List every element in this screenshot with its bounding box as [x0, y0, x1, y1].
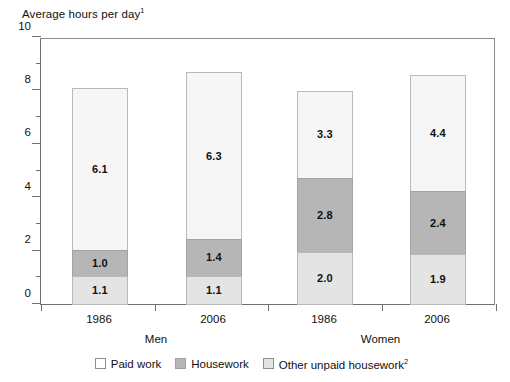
- legend-item-paid[interactable]: Paid work: [95, 358, 162, 370]
- x-axis-category-label: 1986: [279, 313, 369, 325]
- bar-segment-value-label: 1.4: [206, 252, 222, 263]
- x-axis-category-label: 2006: [392, 313, 482, 325]
- bar-segment-other: 6.3: [186, 72, 242, 240]
- x-axis-group-label-men: Men: [96, 333, 216, 345]
- y-axis-tick-label: 8: [7, 74, 31, 86]
- bar-segment-housework: 1.4: [186, 239, 242, 276]
- x-axis-category-label: 2006: [168, 313, 258, 325]
- bar-men-1986: 6.11.01.1: [72, 88, 128, 304]
- bar-segment-value-label: 2.0: [317, 273, 333, 284]
- y-axis-tick-label: 2: [7, 234, 31, 246]
- bar-segment-paid: 1.1: [72, 276, 128, 305]
- bar-segment-other: 6.1: [72, 88, 128, 251]
- bar-segment-paid: 1.9: [410, 254, 466, 305]
- x-axis-category-label: 1986: [54, 313, 144, 325]
- x-axis-group-label-women: Women: [321, 333, 441, 345]
- y-axis-tick: [32, 36, 41, 37]
- y-axis-tick: [32, 89, 41, 90]
- bar-men-2006: 6.31.41.1: [186, 72, 242, 304]
- legend-swatch-paid: [95, 358, 106, 369]
- legend-swatch-housework: [175, 358, 186, 369]
- legend-label: Paid work: [111, 358, 162, 370]
- bar-segment-value-label: 1.1: [206, 285, 222, 296]
- axis-title-footnote-marker: 1: [140, 6, 144, 15]
- bar-segment-value-label: 1.9: [430, 274, 446, 285]
- x-axis-tick: [382, 304, 383, 311]
- y-axis-tick: [32, 303, 41, 304]
- legend-item-other[interactable]: Other unpaid housework2: [263, 357, 408, 371]
- bar-women-2006: 4.42.41.9: [410, 75, 466, 304]
- y-axis-minor-tick: [36, 170, 41, 171]
- bar-segment-value-label: 6.3: [206, 151, 222, 162]
- legend-label: Housework: [191, 358, 249, 370]
- y-axis-minor-tick: [36, 63, 41, 64]
- y-axis-tick: [32, 143, 41, 144]
- bar-segment-housework: 2.4: [410, 191, 466, 255]
- legend-swatch-other: [263, 358, 274, 369]
- bar-women-1986: 3.32.82.0: [297, 91, 353, 304]
- x-axis-tick: [268, 304, 269, 311]
- bar-segment-value-label: 1.0: [92, 258, 108, 269]
- plot-area: 02468106.11.01.16.31.41.13.32.82.04.42.4…: [40, 38, 495, 305]
- chart-legend: Paid workHouseworkOther unpaid housework…: [0, 357, 510, 371]
- y-axis-tick-label: 10: [7, 21, 31, 33]
- chart-axis-title: Average hours per day1: [22, 6, 145, 20]
- y-axis-tick: [32, 250, 41, 251]
- y-axis-tick-label: 6: [7, 127, 31, 139]
- axis-title-text: Average hours per day: [22, 8, 140, 20]
- y-axis-tick-label: 4: [7, 181, 31, 193]
- y-axis-tick: [32, 196, 41, 197]
- y-axis-tick-label: 0: [7, 288, 31, 300]
- bar-segment-housework: 1.0: [72, 250, 128, 277]
- legend-label: Other unpaid housework2: [279, 357, 408, 371]
- bar-segment-value-label: 2.8: [317, 210, 333, 221]
- y-axis-minor-tick: [36, 223, 41, 224]
- bar-segment-other: 4.4: [410, 75, 466, 192]
- bar-segment-value-label: 2.4: [430, 218, 446, 229]
- y-axis-minor-tick: [36, 276, 41, 277]
- bar-segment-value-label: 3.3: [317, 129, 333, 140]
- bar-segment-paid: 1.1: [186, 276, 242, 305]
- bar-segment-value-label: 6.1: [92, 164, 108, 175]
- x-axis-tick: [155, 304, 156, 311]
- bar-segment-value-label: 4.4: [430, 128, 446, 139]
- bar-segment-value-label: 1.1: [92, 285, 108, 296]
- x-axis-tick: [41, 304, 42, 311]
- legend-item-housework[interactable]: Housework: [175, 358, 249, 370]
- x-axis-tick: [496, 304, 497, 311]
- y-axis-minor-tick: [36, 116, 41, 117]
- bar-segment-other: 3.3: [297, 91, 353, 179]
- bar-segment-paid: 2.0: [297, 252, 353, 305]
- legend-footnote-marker: 2: [404, 357, 408, 366]
- bar-segment-housework: 2.8: [297, 178, 353, 253]
- stacked-bar-chart: Average hours per day1 02468106.11.01.16…: [0, 0, 510, 382]
